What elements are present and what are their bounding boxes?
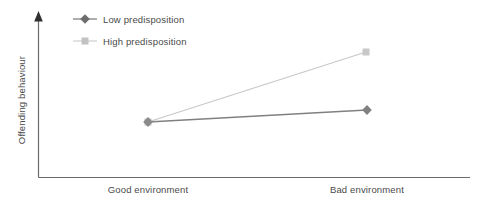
x-tick-label-good-environment: Good environment [108,184,189,195]
square-marker-icon [82,38,89,45]
legend-label-high-predisposition: High predisposition [103,36,187,47]
y-axis-title: Offending behaviour [16,56,27,144]
legend-label-low-predisposition: Low predisposition [103,14,184,25]
chart-container: Offending behaviour Good environment Bad… [0,0,497,202]
series-high-predisposition-point-bad [363,49,370,56]
chart-background [0,0,497,202]
line-chart: Offending behaviour Good environment Bad… [0,0,497,202]
x-tick-label-bad-environment: Bad environment [330,184,404,195]
